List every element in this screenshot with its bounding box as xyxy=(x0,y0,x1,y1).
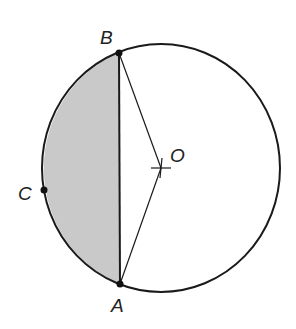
label-c: C xyxy=(18,183,32,204)
label-o: O xyxy=(170,145,185,166)
point-c-dot xyxy=(41,187,48,194)
point-b-dot xyxy=(116,50,123,57)
circle-diagram: B A C O xyxy=(0,0,296,329)
label-a: A xyxy=(110,295,124,316)
shaded-minor-segment xyxy=(44,53,120,284)
chord-ab xyxy=(119,53,120,284)
radius-oa xyxy=(120,168,161,284)
label-b: B xyxy=(100,27,113,48)
radius-ob xyxy=(119,53,161,168)
point-a-dot xyxy=(117,281,124,288)
centre-cross-mark xyxy=(151,158,171,178)
